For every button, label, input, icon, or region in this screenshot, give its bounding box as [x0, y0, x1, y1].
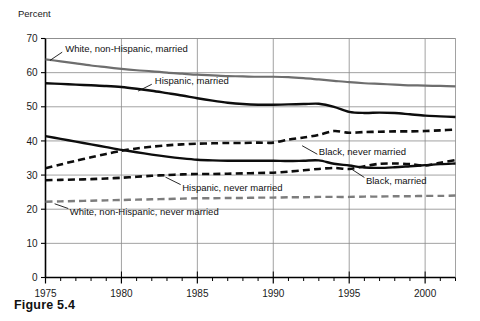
y-tick-label: 0	[32, 272, 38, 283]
series-annotation-1: Hispanic, married	[155, 75, 229, 86]
y-tick-label: 30	[26, 170, 38, 181]
x-tick-label: 1975	[34, 288, 57, 299]
x-tick-label: 1995	[338, 288, 361, 299]
series-annotation-4: Hispanic, never married	[182, 182, 282, 193]
y-tick-label: 70	[26, 33, 38, 44]
series-annotation-5: White, non-Hispanic, never married	[70, 206, 219, 217]
y-tick-label: 60	[26, 67, 38, 78]
figure-caption: Figure 5.4	[14, 298, 75, 312]
figure-container: 197519801985199019952000 010203040506070…	[0, 0, 480, 321]
x-tick-label: 1990	[262, 288, 285, 299]
series-annotation-2: Black, married	[366, 175, 427, 186]
x-tick-label: 1985	[186, 288, 209, 299]
y-tick-label: 10	[26, 238, 38, 249]
x-tick-label: 2000	[414, 288, 437, 299]
y-tick-label: 20	[26, 204, 38, 215]
y-axis-title: Percent	[18, 8, 51, 19]
line-chart: 197519801985199019952000 010203040506070…	[0, 0, 480, 321]
y-tick-label: 40	[26, 136, 38, 147]
x-tick-label: 1980	[110, 288, 133, 299]
series-annotation-3: Black, never married	[319, 146, 406, 157]
y-tick-label: 50	[26, 101, 38, 112]
series-annotation-0: White, non-Hispanic, married	[65, 43, 188, 54]
